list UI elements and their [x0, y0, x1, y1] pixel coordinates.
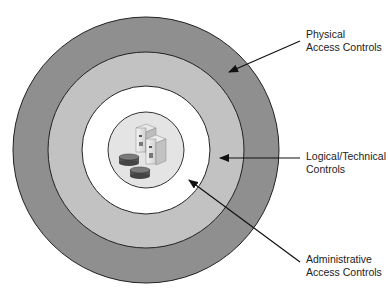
logical-technical-controls-label: Logical/Technical Controls	[306, 150, 386, 176]
database-icon	[119, 154, 139, 166]
label-line: Controls	[306, 163, 386, 176]
physical-access-controls-label: Physical Access Controls	[306, 28, 382, 54]
database-icon	[130, 167, 150, 179]
label-line: Logical/Technical	[306, 150, 386, 163]
administrative-access-controls-label: Administrative Access Controls	[306, 253, 382, 279]
label-line: Access Controls	[306, 41, 382, 54]
label-line: Administrative	[306, 253, 382, 266]
label-line: Physical	[306, 28, 382, 41]
label-line: Access Controls	[306, 266, 382, 279]
